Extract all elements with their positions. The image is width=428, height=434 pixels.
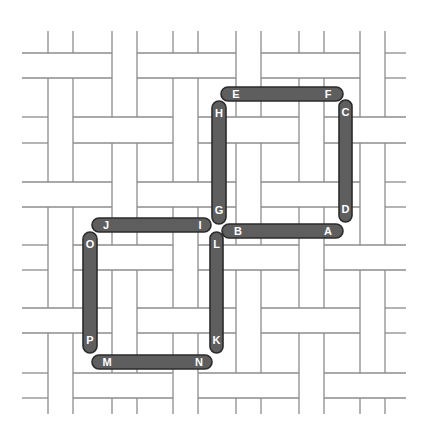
stick-body (92, 218, 211, 232)
point-label-g: G (215, 204, 224, 216)
point-label-k: K (213, 334, 221, 346)
weave-diagram: EFHGCDBAJIOPLKMN (0, 0, 428, 434)
point-label-o: O (86, 238, 95, 250)
matchsticks: EFHGCDBAJIOPLKMN (83, 87, 352, 369)
point-label-d: D (342, 203, 350, 215)
stick-mn: MN (92, 355, 212, 369)
point-label-a: A (324, 225, 332, 237)
point-label-f: F (325, 88, 332, 100)
point-label-j: J (103, 219, 109, 231)
point-label-h: H (215, 107, 223, 119)
stick-ef: EF (221, 87, 343, 101)
stick-lk: LK (210, 232, 223, 353)
stick-cd: CD (339, 100, 352, 222)
point-label-c: C (342, 106, 350, 118)
stick-ji: JI (92, 218, 211, 232)
point-label-i: I (198, 219, 201, 231)
stick-hg: HG (212, 101, 226, 224)
point-label-l: L (213, 238, 220, 250)
point-label-n: N (195, 356, 203, 368)
point-label-p: P (86, 334, 93, 346)
point-label-e: E (232, 88, 239, 100)
point-label-b: B (234, 225, 242, 237)
stick-ba: BA (222, 224, 343, 238)
stick-op: OP (83, 232, 97, 353)
point-label-m: M (102, 356, 111, 368)
